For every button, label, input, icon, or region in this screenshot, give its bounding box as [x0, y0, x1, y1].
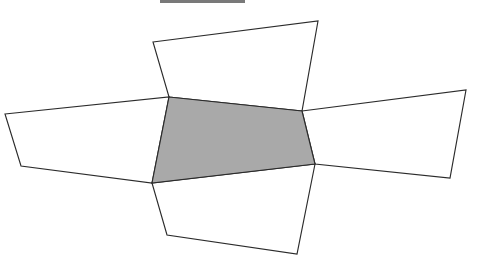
- face-right-wing: [302, 90, 466, 178]
- figure-canvas: [0, 0, 481, 260]
- polyhedron-net-diagram: [0, 0, 481, 260]
- face-left-wing: [5, 97, 169, 183]
